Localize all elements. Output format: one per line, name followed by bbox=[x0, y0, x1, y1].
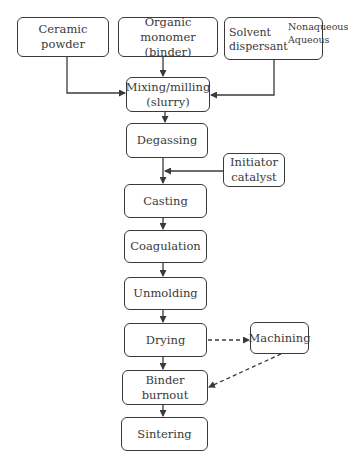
node-label: Organic monomer bbox=[119, 15, 217, 45]
node-solvent-dispersant: Solvent dispersant Nonaqueous Aqueous bbox=[224, 17, 323, 60]
node-organic-monomer: Organic monomer (binder) bbox=[118, 17, 218, 57]
node-label: Machining bbox=[249, 331, 311, 346]
node-ceramic-powder: Ceramic powder bbox=[17, 17, 109, 57]
node-label: Drying bbox=[146, 333, 186, 348]
branch-nonaqueous: Nonaqueous bbox=[288, 20, 348, 33]
edge-solvent-mixing bbox=[211, 60, 274, 95]
node-unmolding: Unmolding bbox=[124, 277, 207, 310]
node-degassing: Degassing bbox=[126, 123, 208, 158]
node-casting: Casting bbox=[124, 184, 207, 218]
node-sintering: Sintering bbox=[121, 417, 208, 451]
node-machining: Machining bbox=[250, 322, 309, 354]
node-label: catalyst bbox=[231, 170, 276, 185]
node-label: Degassing bbox=[137, 133, 198, 148]
node-label: Casting bbox=[143, 194, 188, 209]
node-label: Mixing/milling bbox=[126, 80, 211, 95]
node-label: Initiator bbox=[230, 155, 278, 170]
dispersant-label: dispersant bbox=[229, 40, 288, 53]
node-label: Sintering bbox=[137, 427, 191, 442]
node-binder-burnout: Binder burnout bbox=[122, 370, 208, 405]
node-drying: Drying bbox=[124, 323, 207, 357]
branch-aqueous: Aqueous bbox=[288, 33, 329, 46]
node-mixing-milling: Mixing/milling (slurry) bbox=[126, 77, 210, 112]
node-label: Coagulation bbox=[130, 239, 201, 254]
node-label: (slurry) bbox=[146, 95, 189, 110]
node-label: Binder burnout bbox=[123, 373, 207, 403]
edge-ceramic-mixing bbox=[67, 57, 125, 93]
node-label: Unmolding bbox=[133, 286, 197, 301]
node-coagulation: Coagulation bbox=[124, 230, 207, 263]
solvent-label: Solvent bbox=[229, 26, 271, 39]
node-label: Ceramic powder bbox=[18, 22, 108, 52]
node-initiator-catalyst: Initiator catalyst bbox=[223, 153, 285, 187]
node-label: (binder) bbox=[144, 45, 191, 60]
